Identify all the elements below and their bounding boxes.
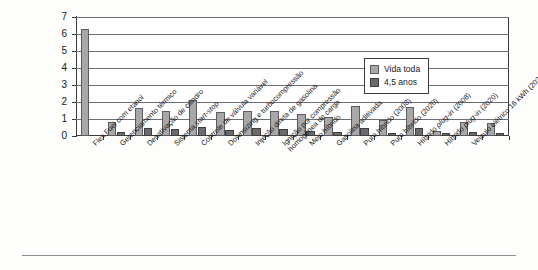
x-axis-label: Sistema start-stop [173,142,179,148]
footer-divider [22,255,516,256]
x-axis-label: Híbrido plug-in (2008) [416,142,422,148]
x-axis-label: Veículo elétrico 16 kWh (2020) [470,142,476,148]
x-axis-label: Downsizing e turbocompressão [227,142,233,148]
x-axis-label: Gerenciamento térmico [119,142,125,148]
x-axis-label: Controle de válvula variável [200,142,206,148]
x-axis-label: Puro híbrido (2020) [389,142,395,148]
dark-gray-swatch-icon [370,78,379,87]
x-axis-label: Meio híbrido [308,142,314,148]
x-axis-label: Puro híbrido (2008) [362,142,368,148]
legend-item-vida-toda: Vida toda [370,63,420,75]
x-axis-label: Híbrido plug-in (2020) [443,142,449,148]
legend-label: 4,5 anos [384,78,417,87]
x-axis-label: Desativação de cilindro [146,142,152,148]
x-axis-label: Ignição por compressãohomogênea de carga [281,142,293,154]
light-gray-swatch-icon [370,65,379,74]
x-axis-labels: Flex Fuel com etanolGerenciamento térmic… [0,0,538,270]
x-axis-label: Flex Fuel com etanol [92,142,98,148]
x-axis-label: Gasolina aditivada [335,142,341,148]
legend-label: Vida toda [384,65,420,74]
chart-legend: Vida toda 4,5 anos [364,58,429,94]
bar-chart-figure: 01234567 Flex Fuel com etanolGerenciamen… [0,0,538,270]
x-axis-label: Injeção direta de gasolina [254,142,260,148]
legend-item-45-anos: 4,5 anos [370,76,420,88]
